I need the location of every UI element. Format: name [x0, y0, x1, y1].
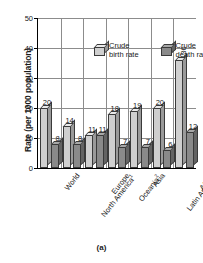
bar-birth — [130, 111, 138, 168]
bar-death — [186, 132, 194, 168]
crude-birth-death-rate-chart: Rate (per 1000 population) 01020304050 2… — [0, 0, 203, 263]
bar-value-label: 19 — [133, 101, 141, 110]
bar-death — [73, 144, 81, 168]
bar-group: 1111 — [83, 18, 106, 168]
bar-death — [51, 144, 59, 168]
bar-value-label: 8 — [55, 134, 59, 143]
bar-value-label: 6 — [168, 140, 172, 149]
legend-entry-crude-death-rate: Crude death rate — [161, 42, 203, 59]
bar-value-label: 20 — [156, 98, 164, 107]
bar-birth — [40, 108, 48, 168]
bar-value-label: 14 — [65, 116, 73, 125]
legend-label-birth-line2: birth rate — [109, 50, 139, 59]
bar-birth — [175, 60, 183, 168]
y-tick-label-50: 50 — [25, 14, 33, 23]
bar-death — [118, 147, 126, 168]
y-tick-label-40: 40 — [25, 44, 33, 53]
bar-group: 208 — [38, 18, 61, 168]
x-axis-label-latin-america-and-the-caribbean: Latin Americaand theCaribbean — [186, 172, 203, 223]
bar-birth — [63, 126, 71, 168]
bar-death — [163, 150, 171, 168]
bar-birth — [153, 108, 161, 168]
bar-death — [96, 135, 104, 168]
bar-group: 148 — [61, 18, 84, 168]
bar-value-label: 8 — [78, 134, 82, 143]
bar-value-label: 12 — [189, 122, 197, 131]
bar-value-label: 18 — [111, 104, 119, 113]
y-tick-label-30: 30 — [25, 74, 33, 83]
y-tick-label-0: 0 — [29, 164, 33, 173]
y-tick-label-10: 10 — [25, 134, 33, 143]
legend-entry-crude-birth-rate: Crude birth rate — [94, 42, 139, 59]
legend-label-death: Crude death rate — [176, 42, 203, 59]
bar-value-label: 11 — [88, 125, 96, 134]
y-tick-label-20: 20 — [25, 104, 33, 113]
cube-icon-death — [161, 47, 172, 56]
y-tick-mark-0 — [34, 168, 38, 169]
legend-label-death-line2: death rate — [176, 50, 203, 59]
bar-birth — [85, 135, 93, 168]
bar-value-label: 7 — [146, 137, 150, 146]
plot-area: 01020304050 20814811111871972063612 Crud… — [38, 18, 196, 168]
figure-caption: (a) — [0, 243, 203, 252]
bar-group: 206 — [151, 18, 174, 168]
bar-death — [141, 147, 149, 168]
bar-group: 197 — [128, 18, 151, 168]
legend-label-birth: Crude birth rate — [109, 42, 139, 59]
x-axis-label-world: World — [63, 172, 81, 192]
bar-birth — [108, 114, 116, 168]
bar-value-label: 20 — [43, 98, 51, 107]
x-axis-line — [37, 168, 196, 169]
cube-icon-birth — [94, 47, 105, 56]
chart-legend: Crude birth rate Crude death rate — [94, 42, 203, 59]
bar-value-label: 7 — [123, 137, 127, 146]
